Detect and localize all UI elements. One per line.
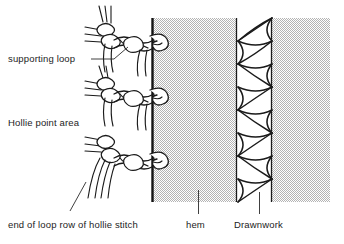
label-drawnwork: Drawnwork xyxy=(234,219,283,230)
label-end-of-loop-row: end of loop row of hollie stitch xyxy=(8,219,138,230)
hollie-point-diagram: supporting loop Hollie point area end of… xyxy=(0,0,344,244)
label-hem: hem xyxy=(186,219,205,230)
label-supporting-loop: supporting loop xyxy=(8,53,75,64)
leader-end-of-loop-row xyxy=(70,182,86,211)
label-hollie-point-area: Hollie point area xyxy=(8,117,80,128)
